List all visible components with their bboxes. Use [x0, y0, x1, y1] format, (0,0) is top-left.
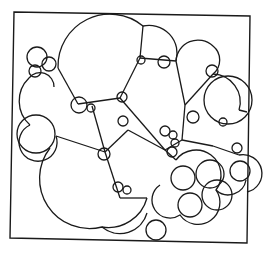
bubble-c-j12 — [169, 131, 177, 139]
cell-edge-e2 — [140, 26, 143, 58]
bubble-c-br-a — [171, 166, 195, 190]
cell-arc-right-upper — [213, 74, 240, 110]
bubble-c-j10 — [219, 118, 227, 126]
cell-arc-right-edge — [239, 155, 262, 192]
bubble-c-br-c — [178, 193, 202, 217]
cell-edge-e8 — [182, 140, 213, 146]
cell-arc-left-lower — [19, 125, 57, 161]
bubble-packing-diagram — [0, 0, 265, 255]
bubble-c-left-big — [17, 115, 55, 153]
bubble-c-j7 — [118, 116, 128, 126]
bubble-c-j9 — [187, 111, 199, 123]
bubble-c-j2 — [87, 104, 95, 112]
cell-arc-right-bottom-cluster — [152, 150, 221, 224]
cell-edge-e12 — [92, 106, 105, 152]
bubble-c-br-e — [230, 161, 250, 181]
bubble-c-j1 — [71, 97, 87, 113]
cell-arc-left-mid — [19, 78, 30, 125]
bubble-c-mid-r — [204, 76, 252, 124]
cell-edge-e18 — [213, 146, 239, 155]
bubble-c-bottom — [146, 220, 166, 240]
cell-edge-e13 — [56, 136, 105, 152]
cell-edge-e7 — [182, 105, 185, 140]
cell-arc-bottom-arc — [102, 213, 147, 234]
bubble-c-j15 — [232, 143, 242, 153]
bubble-c-tl-a — [27, 47, 47, 67]
bubble-c-br-b — [196, 160, 224, 188]
cell-edge-e14 — [105, 130, 128, 152]
bubble-c-j5 — [158, 56, 170, 68]
cell-arc-left-small-stack — [29, 73, 54, 87]
diagram-canvas — [0, 0, 265, 255]
bubble-c-j17 — [123, 186, 131, 194]
cell-edge-e9 — [165, 140, 182, 150]
cell-arc-top-right-cap — [176, 40, 220, 74]
bubble-c-j4 — [137, 56, 145, 64]
cell-edge-e6 — [185, 74, 213, 105]
cell-edge-e19 — [239, 110, 247, 112]
cell-edge-e15 — [128, 130, 165, 150]
cell-edge-e5 — [176, 61, 185, 105]
